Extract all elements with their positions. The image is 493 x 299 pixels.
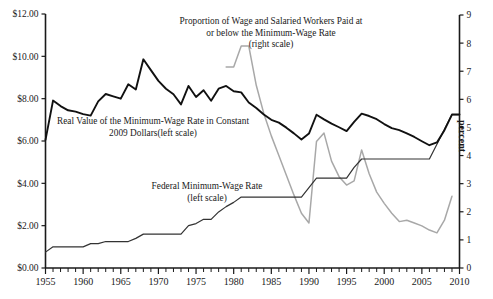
annotation-real-value: Real Value of the Minimum-Wage Rate in C… (47, 116, 259, 139)
left-axis-tick-label: $2.00 (17, 221, 39, 231)
left-axis-labels: $0.00$2.00$4.00$6.00$8.00$10.00$12.00 (12, 9, 38, 273)
right-axis-tick-label: 9 (467, 10, 472, 20)
annotation-proportion-line1: Proportion of Wage and Salaried Workers … (166, 16, 376, 28)
x-axis-tick-label: 1990 (299, 276, 319, 287)
right-axis-tick-label: 2 (467, 207, 472, 217)
annotation-federal-minimum-wage: Federal Minimum-Wage Rate (left scale) (137, 181, 277, 204)
x-axis-tick-label: 2000 (374, 276, 394, 287)
left-axis-tick-label: $0.00 (17, 263, 39, 273)
right-axis-tick-label: 3 (467, 179, 472, 189)
x-axis-tick-label: 1975 (186, 276, 206, 287)
right-axis-tick-label: 0 (467, 263, 472, 273)
x-axis-tick-label: 1970 (148, 276, 168, 287)
annotation-federal-line1: Federal Minimum-Wage Rate (137, 181, 277, 193)
x-axis-tick-label: 1980 (224, 276, 244, 287)
annotation-real-value-line1: Real Value of the Minimum-Wage Rate in C… (47, 116, 259, 128)
right-axis-tick-label: 8 (467, 39, 472, 49)
annotation-real-value-line2: 2009 Dollars(left scale) (47, 128, 259, 140)
right-axis-title: percent (457, 120, 468, 152)
x-axis-labels: 1955196019651970197519801985199019952000… (36, 276, 470, 287)
x-axis-tick-label: 1995 (337, 276, 357, 287)
left-axis-tick-label: $6.00 (17, 136, 39, 146)
right-axis-tick-label: 4 (467, 151, 472, 161)
x-axis-tick-label: 1965 (111, 276, 131, 287)
annotation-proportion-line3: (right scale) (166, 39, 376, 51)
x-axis-tick-label: 2005 (412, 276, 432, 287)
annotation-federal-line2: (left scale) (137, 193, 277, 205)
x-axis-tick-label: 1985 (261, 276, 281, 287)
x-axis-tick-label: 2010 (450, 276, 470, 287)
x-axis-tick-label: 1960 (73, 276, 93, 287)
right-axis-tick-label: 7 (467, 67, 472, 77)
annotation-proportion-line2: or below the Minimum-Wage Rate (166, 28, 376, 40)
chart-container: $0.00$2.00$4.00$6.00$8.00$10.00$12.00 01… (0, 0, 493, 299)
left-axis-tick-label: $4.00 (17, 179, 39, 189)
left-axis-tick-label: $10.00 (12, 52, 38, 62)
x-axis-tick-group (46, 268, 460, 274)
x-axis-tick-label: 1955 (36, 276, 56, 287)
left-axis-tick-label: $8.00 (17, 94, 39, 104)
left-axis-tick-label: $12.00 (12, 9, 38, 19)
right-axis-tick-label: 1 (467, 235, 472, 245)
right-axis-tick-label: 6 (467, 95, 472, 105)
annotation-proportion: Proportion of Wage and Salaried Workers … (166, 16, 376, 51)
